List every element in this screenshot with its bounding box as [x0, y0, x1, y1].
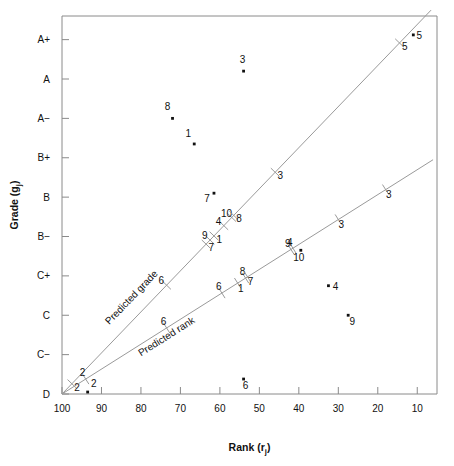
- x-axis-tick-label: 70: [175, 403, 187, 414]
- y-axis-tick-label: B+: [37, 152, 50, 163]
- x-axis-tick-label: 60: [214, 403, 226, 414]
- y-axis-tick-label: B−: [37, 231, 50, 242]
- y-axis-tick-label: A−: [37, 113, 50, 124]
- data-point-label: 3: [240, 54, 246, 65]
- chart-svg: DC−CC+B−BB+A−AA+100908070605040302010269…: [0, 0, 454, 466]
- fit-line-tick-label: 7: [248, 276, 254, 287]
- data-point: [242, 70, 245, 73]
- fit-line-name-predicted-rank: Predicted rank: [136, 314, 197, 358]
- fit-line-tick-label: 3: [339, 219, 345, 230]
- x-axis-tick-label: 30: [333, 403, 345, 414]
- data-point: [171, 117, 174, 120]
- scatter-chart-figure: DC−CC+B−BB+A−AA+100908070605040302010269…: [0, 0, 454, 466]
- data-point: [213, 192, 216, 195]
- fit-line-tick-label: 4: [287, 237, 293, 248]
- x-axis-tick-label: 100: [54, 403, 71, 414]
- data-point: [86, 391, 89, 394]
- y-axis-tick-label: C+: [37, 270, 50, 281]
- data-point-label: 2: [91, 378, 97, 389]
- data-point-label: 9: [349, 316, 355, 327]
- fit-line-tick-label: 1: [238, 283, 244, 294]
- fit-line-predicted-grade: [62, 10, 431, 394]
- fit-line-tick-label: 2: [80, 367, 86, 378]
- fit-line-tick-label: 5: [402, 41, 408, 52]
- y-axis-tick-label: D: [43, 389, 50, 400]
- fit-line-tick-label: 8: [236, 213, 242, 224]
- data-point: [299, 249, 302, 252]
- x-axis-title: Rank (rj): [229, 441, 271, 456]
- data-point-label: 6: [243, 380, 249, 391]
- data-point: [327, 284, 330, 287]
- fit-line-tick-label: 3: [386, 189, 392, 200]
- y-axis-tick-label: C: [43, 310, 50, 321]
- x-axis-tick-label: 50: [254, 403, 266, 414]
- x-axis-tick-label: 80: [135, 403, 147, 414]
- y-axis-tick-label: A+: [37, 34, 50, 45]
- data-point-label: 5: [417, 30, 423, 41]
- fit-line-name-predicted-grade: Predicted grade: [103, 268, 160, 327]
- x-axis-tick-label: 90: [96, 403, 108, 414]
- fit-line-tick-label: 7: [209, 242, 215, 253]
- fit-line-tick-label: 6: [161, 316, 167, 327]
- fit-line-tick-label: 3: [278, 170, 284, 181]
- data-point-label: 8: [165, 101, 171, 112]
- data-point-label: 1: [185, 128, 191, 139]
- data-point-label: 7: [204, 193, 210, 204]
- y-axis-tick-label: C−: [37, 349, 50, 360]
- y-axis-tick-label: B: [43, 192, 50, 203]
- y-axis-title: Grade (gj): [8, 181, 23, 230]
- fit-line-tick-label: 1: [216, 234, 222, 245]
- fit-line-tick-label: 6: [216, 281, 222, 292]
- data-point: [412, 34, 415, 37]
- x-axis-tick-label: 40: [293, 403, 305, 414]
- data-point: [193, 143, 196, 146]
- fit-line-tick-label: 6: [159, 275, 165, 286]
- data-point-label: 10: [293, 252, 305, 263]
- x-axis-tick-label: 10: [412, 403, 424, 414]
- fit-line-tick-label: 9: [202, 230, 208, 241]
- data-point-label: 4: [333, 281, 339, 292]
- x-axis-tick-label: 20: [372, 403, 384, 414]
- y-axis-tick-label: A: [43, 74, 50, 85]
- plot-frame: [62, 16, 437, 394]
